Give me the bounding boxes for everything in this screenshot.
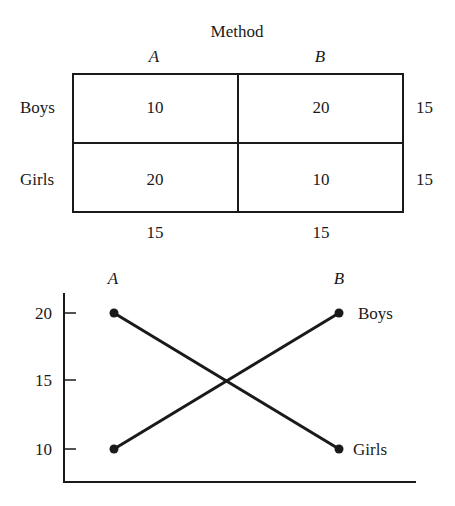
series-label-girls: Girls — [353, 441, 387, 458]
y-tick-label-15: 15 — [35, 372, 52, 389]
x-label-b: B — [334, 270, 344, 287]
point-boys-a — [110, 445, 119, 454]
series-label-boys: Boys — [358, 305, 393, 322]
interaction-plot — [0, 0, 455, 506]
y-tick-label-20: 20 — [35, 305, 52, 322]
point-boys-b — [335, 309, 344, 318]
point-girls-b — [335, 445, 344, 454]
y-tick-label-10: 10 — [35, 441, 52, 458]
x-label-a: A — [108, 270, 118, 287]
point-girls-a — [110, 309, 119, 318]
